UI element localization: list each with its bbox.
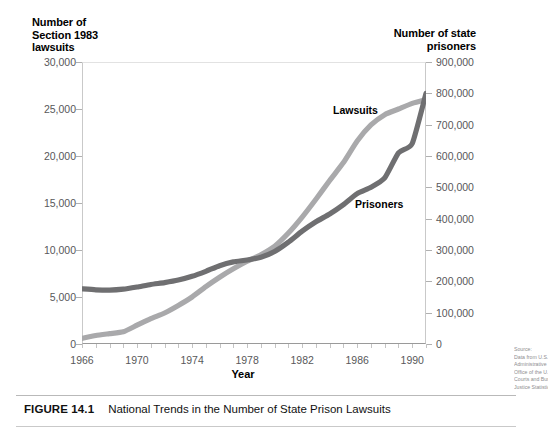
x-tick-mark [357, 344, 358, 348]
left-tick-label: 15,000 [14, 198, 76, 209]
right-tick-mark [426, 250, 432, 251]
series-line-lawsuits [82, 100, 426, 339]
x-tick-mark [165, 344, 166, 348]
caption-divider-bottom [16, 426, 516, 427]
right-axis-title: Number of state prisoners [326, 27, 476, 52]
left-tick-mark [76, 62, 82, 63]
right-tick-label: 800,000 [436, 88, 508, 99]
x-tick-mark [178, 344, 179, 348]
source-note: Source:Data from U.S.AdministrativeOffic… [514, 346, 548, 392]
right-tick-label: 300,000 [436, 245, 508, 256]
series-layer [82, 93, 426, 338]
right-tick-label: 500,000 [436, 182, 508, 193]
x-tick-mark [96, 344, 97, 348]
source-note-line: Source: [514, 346, 548, 354]
x-tick-label: 1966 [58, 355, 106, 366]
right-tick-label: 400,000 [436, 214, 508, 225]
source-note-line: Justice Statistics. [514, 384, 548, 392]
x-tick-mark [137, 344, 138, 348]
right-axis-title-line-1: Number of state [326, 27, 476, 40]
right-tick-mark [426, 219, 432, 220]
x-tick-mark [233, 344, 234, 348]
left-tick-label: 0 [14, 339, 76, 350]
x-tick-mark [151, 344, 152, 348]
figure-caption: FIGURE 14.1National Trends in the Number… [24, 403, 504, 415]
right-tick-label: 700,000 [436, 120, 508, 131]
right-tick-label: 600,000 [436, 151, 508, 162]
x-tick-mark [330, 344, 331, 348]
left-tick-mark [76, 250, 82, 251]
right-tick-mark [426, 62, 432, 63]
x-tick-mark [316, 344, 317, 348]
x-axis-title: Year [0, 368, 532, 380]
x-tick-mark [192, 344, 193, 348]
figure-caption-number: FIGURE 14.1 [24, 403, 94, 415]
x-tick-mark [247, 344, 248, 348]
x-tick-mark [385, 344, 386, 348]
x-tick-label: 1974 [168, 355, 216, 366]
right-tick-label: 200,000 [436, 276, 508, 287]
x-tick-mark [275, 344, 276, 348]
series-label-lawsuits: Lawsuits [333, 104, 378, 116]
left-axis-title-line-2: Section 1983 [32, 29, 152, 42]
x-tick-label: 1982 [278, 355, 326, 366]
x-tick-mark [206, 344, 207, 348]
x-tick-mark [343, 344, 344, 348]
x-tick-mark [426, 344, 427, 348]
figure-caption-text: National Trends in the Number of State P… [108, 403, 391, 415]
x-axis-title-text: Year [231, 368, 254, 380]
x-tick-label: 1978 [223, 355, 271, 366]
right-tick-mark [426, 125, 432, 126]
x-tick-mark [398, 344, 399, 348]
source-note-line: Data from U.S. [514, 354, 548, 362]
source-note-line: Courts and Bureau of [514, 376, 548, 384]
left-tick-mark [76, 297, 82, 298]
x-tick-mark [261, 344, 262, 348]
x-tick-mark [82, 344, 83, 348]
x-tick-mark [123, 344, 124, 348]
right-tick-mark [426, 281, 432, 282]
source-note-line: Administrative [514, 361, 548, 369]
right-tick-mark [426, 313, 432, 314]
right-tick-mark [426, 93, 432, 94]
left-tick-label: 30,000 [14, 57, 76, 68]
right-tick-mark [426, 156, 432, 157]
source-note-line: Office of the U.S. [514, 369, 548, 377]
x-tick-mark [412, 344, 413, 348]
series-label-prisoners: Prisoners [355, 198, 403, 210]
left-tick-label: 5,000 [14, 292, 76, 303]
left-tick-mark [76, 109, 82, 110]
right-tick-label: 100,000 [436, 308, 508, 319]
left-tick-label: 25,000 [14, 104, 76, 115]
left-tick-mark [76, 156, 82, 157]
left-tick-label: 10,000 [14, 245, 76, 256]
x-tick-mark [302, 344, 303, 348]
right-tick-mark [426, 187, 432, 188]
left-axis-title-line-1: Number of [32, 16, 152, 29]
left-axis-title-line-3: lawsuits [32, 41, 152, 54]
x-tick-label: 1986 [333, 355, 381, 366]
right-tick-label: 900,000 [436, 57, 508, 68]
left-axis-title: Number of Section 1983 lawsuits [32, 16, 152, 54]
x-tick-mark [288, 344, 289, 348]
caption-divider-top [16, 395, 516, 396]
x-tick-label: 1970 [113, 355, 161, 366]
x-tick-mark [371, 344, 372, 348]
right-tick-label: 0 [436, 339, 508, 350]
left-tick-label: 20,000 [14, 151, 76, 162]
right-axis-title-line-2: prisoners [326, 40, 476, 53]
x-tick-mark [110, 344, 111, 348]
left-tick-mark [76, 203, 82, 204]
x-tick-mark [220, 344, 221, 348]
x-tick-label: 1990 [388, 355, 436, 366]
